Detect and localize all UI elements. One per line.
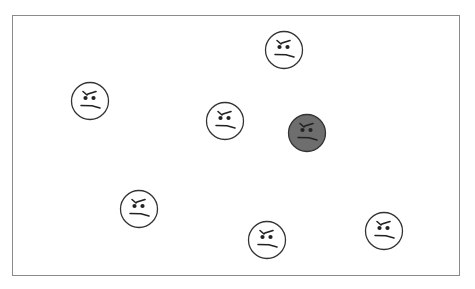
grumpy-face-icon xyxy=(70,81,110,121)
grumpy-face-icon xyxy=(364,211,404,251)
grumpy-face[interactable] xyxy=(119,189,159,229)
grumpy-face[interactable] xyxy=(70,81,110,121)
grumpy-face[interactable] xyxy=(264,30,304,70)
grumpy-face-icon xyxy=(205,101,245,141)
game-canvas[interactable] xyxy=(12,15,460,276)
grumpy-face-icon xyxy=(287,113,327,153)
grumpy-face-icon xyxy=(264,30,304,70)
grumpy-face-selected[interactable] xyxy=(287,113,327,153)
grumpy-face[interactable] xyxy=(364,211,404,251)
grumpy-face-icon xyxy=(247,220,287,260)
grumpy-face[interactable] xyxy=(247,220,287,260)
grumpy-face[interactable] xyxy=(205,101,245,141)
grumpy-face-icon xyxy=(119,189,159,229)
